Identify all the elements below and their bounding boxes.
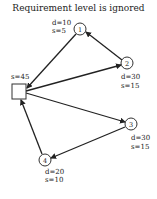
node-demand-label: d=30 (131, 134, 150, 142)
node-demand-label: d=30 (121, 73, 140, 81)
node-service-label: s=10 (45, 176, 63, 184)
node-id: 2 (125, 60, 129, 68)
customer-node-3: 3 d=30 s=15 (125, 118, 150, 151)
node-id: 3 (129, 121, 133, 129)
edges (21, 32, 125, 158)
edge-3-to-4 (51, 127, 125, 158)
node-demand-label: d=10 (52, 19, 71, 27)
node-service-label: s=15 (121, 82, 139, 90)
node-id: 4 (43, 157, 47, 165)
edge-2-to-1 (86, 32, 122, 60)
edge-depot-to-2 (26, 65, 121, 91)
depot-supply-label: s=45 (11, 73, 29, 81)
node-service-label: s=15 (131, 143, 149, 151)
depot-node: s=45 (11, 73, 29, 99)
node-id: 1 (78, 26, 82, 34)
route-diagram: s=45 1 d=10 s=5 2 d=30 s=15 3 d=30 s=15 … (0, 0, 157, 199)
edge-4-to-depot (21, 100, 42, 154)
node-service-label: s=5 (52, 27, 66, 35)
edge-depot-to-3 (26, 93, 125, 122)
customer-node-4: 4 d=20 s=10 (39, 154, 64, 184)
node-demand-label: d=20 (45, 168, 64, 176)
customer-node-2: 2 d=30 s=15 (121, 57, 140, 90)
customer-node-1: 1 d=10 s=5 (52, 19, 86, 35)
